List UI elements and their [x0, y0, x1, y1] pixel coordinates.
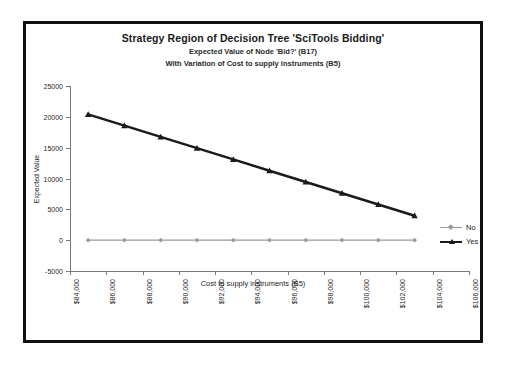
data-point-no	[267, 238, 272, 243]
x-axis-tick	[324, 271, 325, 275]
data-point-no	[303, 238, 308, 243]
data-point-no	[231, 238, 236, 243]
y-axis-title: Expected Value	[33, 154, 40, 203]
x-axis-tick	[106, 271, 107, 275]
x-axis-tick-label: $98,000	[327, 279, 334, 304]
data-point-no	[340, 238, 345, 243]
x-axis-tick-label: $90,000	[182, 279, 189, 304]
data-point-no	[376, 238, 381, 243]
chart-legend: NoYes	[440, 220, 500, 248]
x-axis-title: Cost to supply instruments (B5)	[201, 279, 306, 288]
y-axis-tick-label: 0	[59, 237, 63, 244]
data-point-no	[86, 238, 91, 243]
chart-frame: Strategy Region of Decision Tree 'SciToo…	[23, 21, 483, 343]
x-axis-tick	[251, 271, 252, 275]
data-point-no	[195, 238, 200, 243]
x-axis-tick	[179, 271, 180, 275]
x-axis-tick	[469, 271, 470, 275]
x-axis-tick	[360, 271, 361, 275]
page-title: Strategy Region of Decision Tree 'SciToo…	[26, 32, 480, 44]
y-axis-tick-label: 5000	[47, 206, 63, 213]
x-axis-tick-label: $100,000	[363, 279, 370, 308]
x-axis-tick	[143, 271, 144, 275]
y-axis-tick-label: 10000	[44, 175, 63, 182]
plot-area: Expected Value 2500020000150001000050000…	[70, 86, 469, 271]
data-point-no	[122, 238, 127, 243]
x-axis-tick	[433, 271, 434, 275]
x-axis-line	[70, 271, 469, 272]
data-point-no	[158, 238, 163, 243]
legend-swatch-yes-icon	[440, 237, 462, 245]
legend-item-no[interactable]: No	[440, 220, 500, 234]
data-point-no	[412, 238, 417, 243]
x-axis-tick-label: $84,000	[73, 279, 80, 304]
legend-label: No	[466, 223, 476, 232]
x-axis-tick	[288, 271, 289, 275]
x-axis-tick	[70, 271, 71, 275]
y-axis-tick-label: 15000	[44, 144, 63, 151]
x-axis-tick-label: $106,000	[472, 279, 479, 308]
legend-label: Yes	[466, 237, 478, 246]
legend-swatch-no-icon	[440, 223, 462, 231]
y-axis-tick-label: 20000	[44, 113, 63, 120]
series-lines	[70, 86, 469, 271]
chart-subtitle-2: With Variation of Cost to supply instrum…	[26, 59, 480, 68]
x-axis-tick-label: $102,000	[399, 279, 406, 308]
x-axis-tick-label: $88,000	[146, 279, 153, 304]
chart-title-block: Strategy Region of Decision Tree 'SciToo…	[26, 32, 480, 68]
x-axis-tick	[396, 271, 397, 275]
chart-subtitle-1: Expected Value of Node 'Bid?' (B17)	[26, 47, 480, 56]
y-axis-tick-label: -5000	[45, 268, 63, 275]
x-axis-tick	[215, 271, 216, 275]
series-line-yes	[88, 114, 414, 215]
x-axis-tick-label: $86,000	[109, 279, 116, 304]
legend-item-yes[interactable]: Yes	[440, 234, 500, 248]
x-axis-tick-label: $104,000	[436, 279, 443, 308]
y-axis-tick-label: 25000	[44, 83, 63, 90]
